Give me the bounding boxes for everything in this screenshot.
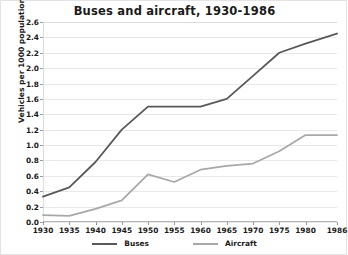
chart-legend: BusesAircraft — [1, 239, 348, 248]
legend-item-aircraft[interactable]: Aircraft — [193, 239, 257, 248]
x-tick-mark — [174, 222, 175, 225]
x-tick-mark — [201, 222, 202, 225]
gridline — [43, 222, 337, 223]
legend-item-buses[interactable]: Buses — [92, 239, 149, 248]
x-tick-mark — [253, 222, 254, 225]
y-tick-label: 0.8 — [26, 156, 39, 165]
y-tick-label: 2.0 — [26, 64, 39, 73]
x-tick-label: 1975 — [269, 226, 290, 235]
y-tick-label: 0.4 — [26, 187, 39, 196]
x-tick-mark — [306, 222, 307, 225]
y-tick-label: 0.6 — [26, 171, 39, 180]
x-tick-label: 1945 — [111, 226, 132, 235]
x-tick-label: 1980 — [295, 226, 316, 235]
y-tick-label: 2.2 — [26, 48, 39, 57]
series-line-aircraft — [43, 135, 337, 216]
x-tick-label: 1970 — [243, 226, 264, 235]
y-tick-label: 1.6 — [26, 94, 39, 103]
x-tick-label: 1960 — [190, 226, 211, 235]
y-tick-label: 2.4 — [26, 33, 39, 42]
x-tick-mark — [96, 222, 97, 225]
x-tick-label: 1940 — [85, 226, 106, 235]
x-tick-label: 1935 — [59, 226, 80, 235]
y-axis-label: Vehicles per 1000 population — [17, 0, 26, 141]
legend-label: Buses — [124, 239, 149, 248]
series-line-buses — [43, 34, 337, 197]
y-tick-label: 1.0 — [26, 141, 39, 150]
y-tick-label: 1.2 — [26, 125, 39, 134]
chart-title: Buses and aircraft, 1930-1986 — [1, 4, 348, 18]
legend-label: Aircraft — [225, 239, 257, 248]
x-tick-mark — [69, 222, 70, 225]
x-tick-mark — [148, 222, 149, 225]
plot-area: 0.00.20.40.60.81.01.21.41.61.82.02.22.42… — [43, 22, 337, 222]
y-tick-label: 1.4 — [26, 110, 39, 119]
x-tick-mark — [122, 222, 123, 225]
y-tick-label: 1.8 — [26, 79, 39, 88]
x-tick-mark — [227, 222, 228, 225]
legend-swatch-aircraft — [193, 243, 218, 245]
x-tick-label: 1965 — [216, 226, 237, 235]
x-tick-label: 1986 — [327, 226, 348, 235]
legend-swatch-buses — [92, 243, 117, 245]
x-tick-mark — [279, 222, 280, 225]
x-tick-label: 1955 — [164, 226, 185, 235]
x-tick-label: 1950 — [138, 226, 159, 235]
y-tick-label: 2.6 — [26, 18, 39, 27]
x-tick-mark — [337, 222, 338, 225]
x-tick-mark — [43, 222, 44, 225]
x-tick-label: 1930 — [33, 226, 54, 235]
series-layer — [43, 22, 337, 222]
y-tick-label: 0.2 — [26, 202, 39, 211]
